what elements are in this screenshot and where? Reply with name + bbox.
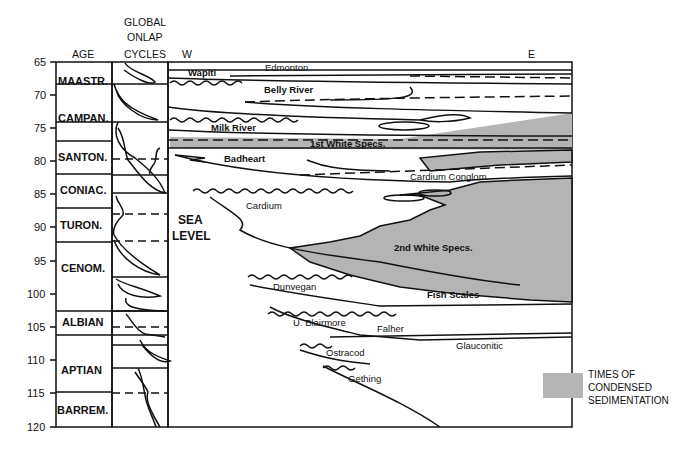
east-label: E (528, 48, 535, 60)
label-milk-river: Milk River (211, 122, 256, 133)
stage-turonian: TURON. (60, 219, 102, 231)
tick-90: 90 (34, 221, 46, 233)
tick-75: 75 (34, 122, 46, 134)
label-cardium-conglom: Cardium Conglom. (410, 171, 489, 182)
west-label: W (182, 48, 192, 60)
tick-65: 65 (34, 56, 46, 68)
tick-70: 70 (34, 89, 46, 101)
sea-level-line1: SEA (178, 213, 203, 227)
tick-110: 110 (27, 354, 45, 366)
legend-line2: CONDENSED (588, 382, 652, 393)
tick-80: 80 (34, 155, 46, 167)
onlap-header-line1: GLOBAL (124, 16, 166, 28)
label-second-white-specs: 2nd White Specs. (394, 242, 473, 253)
label-dunvegan: Dunvegan (273, 281, 316, 292)
sea-level-line2: LEVEL (172, 229, 211, 243)
stage-aptian: APTIAN (61, 364, 102, 376)
stage-albian: ALBIAN (62, 316, 104, 328)
tick-115: 115 (27, 387, 45, 399)
cross-section: Wapiti Edmonton Belly River Milk River 1… (149, 62, 572, 427)
stratigraphic-diagram: AGE GLOBAL ONLAP CYCLES W E 65 70 75 80 … (0, 0, 686, 451)
onlap-header-line2: ONLAP (127, 31, 163, 43)
label-ostracod: Ostracod (326, 347, 365, 358)
legend-swatch (543, 373, 583, 398)
label-cardium: Cardium (246, 200, 282, 211)
legend-line1: TIMES OF (588, 369, 635, 380)
stage-barremian: BARREM. (57, 404, 108, 416)
label-u-blairmore: U. Blairmore (293, 317, 346, 328)
tick-95: 95 (34, 255, 46, 267)
label-first-white-specs: 1st White Specs. (310, 138, 386, 149)
stage-maastrichtian: MAASTR. (58, 75, 108, 87)
stage-campanian: CAMPAN. (58, 112, 109, 124)
label-edmonton: Edmonton (265, 62, 308, 73)
tick-100: 100 (27, 288, 45, 300)
label-wapiti: Wapiti (188, 67, 216, 78)
tick-120: 120 (27, 421, 45, 433)
label-badheart: Badheart (224, 153, 266, 164)
label-fish-scales: Fish Scales (427, 289, 479, 300)
stage-coniacian: CONIAC. (60, 184, 106, 196)
label-belly-river: Belly River (264, 84, 313, 95)
stage-cenomanian: CENOM. (61, 262, 105, 274)
tick-105: 105 (27, 321, 45, 333)
stage-santonian: SANTON. (58, 151, 107, 163)
label-glauconitic: Glauconitic (456, 340, 503, 351)
y-axis (50, 62, 56, 427)
legend: TIMES OF CONDENSED SEDIMENTATION (543, 369, 669, 406)
label-gething: Gething (348, 373, 381, 384)
onlap-header-line3: CYCLES (124, 48, 166, 60)
label-falher: Falher (377, 323, 404, 334)
age-header: AGE (72, 48, 94, 60)
tick-85: 85 (34, 188, 46, 200)
global-onlap-cycles (112, 62, 170, 427)
legend-line3: SEDIMENTATION (588, 395, 669, 406)
